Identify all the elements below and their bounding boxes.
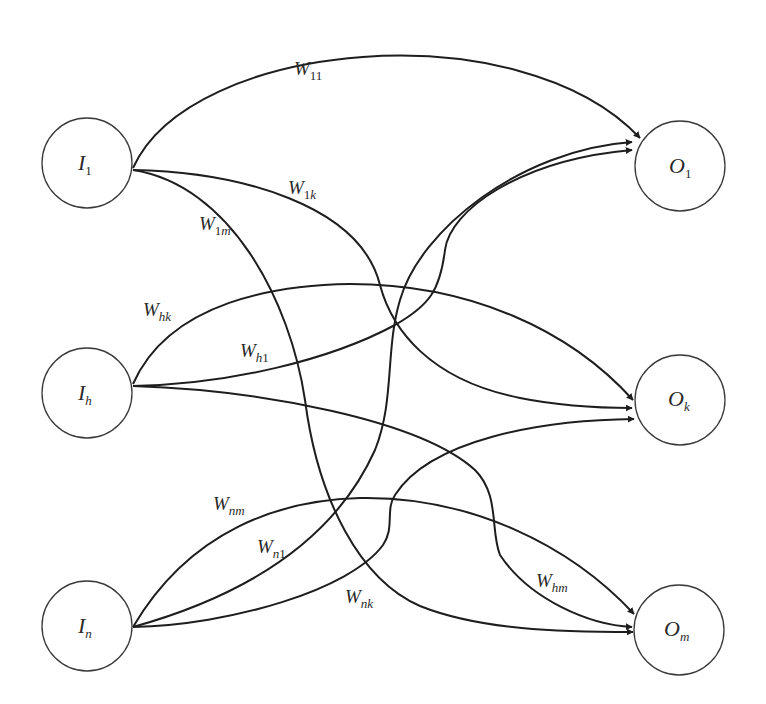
output-node-ok[interactable]: Ok: [635, 355, 725, 445]
edge-whk: [133, 284, 633, 400]
edge-w1m: [133, 170, 633, 632]
label-w1m: W1m: [199, 213, 231, 238]
input-node-i1[interactable]: I1: [42, 118, 132, 208]
edges: [133, 56, 640, 632]
edge-wnm: [133, 498, 634, 627]
label-w1k: W1k: [288, 177, 316, 202]
label-wh1: Wh1: [240, 340, 269, 365]
edge-wh1: [133, 150, 632, 386]
edge-wnk: [133, 419, 634, 627]
output-node-om[interactable]: Om: [634, 585, 724, 675]
label-wnm: Wnm: [213, 493, 245, 518]
label-whk: Whk: [143, 299, 171, 324]
label-whm: Whm: [536, 570, 568, 595]
edge-w11: [133, 56, 640, 168]
label-wnk: Wnk: [345, 586, 373, 611]
network-diagram: I1 Ih In O1 Ok Om W11: [0, 0, 766, 704]
edge-labels: W11 W1k W1m Whk Wh1 Whm Wnm Wn1 Wnk: [143, 58, 568, 611]
input-node-in[interactable]: In: [42, 581, 132, 671]
input-node-ih[interactable]: Ih: [42, 348, 132, 438]
label-wn1: Wn1: [257, 536, 286, 561]
output-node-o1[interactable]: O1: [635, 121, 725, 211]
